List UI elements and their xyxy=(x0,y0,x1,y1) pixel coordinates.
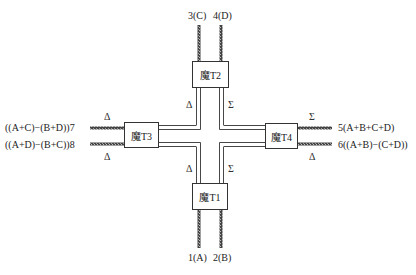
port-4-label: 4(D) xyxy=(213,10,232,21)
magic-t3-label: 魔T3 xyxy=(131,128,152,143)
magic-t2-box: 魔T2 xyxy=(192,61,229,88)
port-5-label: 5(A+B+C+D) xyxy=(338,122,394,133)
port-6-label: 6((A+B)−(C+D)) xyxy=(338,139,408,150)
port-3-line xyxy=(198,25,201,61)
port-1-line xyxy=(198,210,201,248)
port-7-label: ((A+C)−(B+D))7 xyxy=(5,122,75,133)
waveguide-lines xyxy=(0,0,416,275)
port-5-line xyxy=(298,127,332,130)
delta-symbol-t4-bottom: Δ xyxy=(309,151,315,162)
delta-symbol-t3-top: Δ xyxy=(104,111,110,122)
port-2-line xyxy=(220,210,223,248)
magic-t1-box: 魔T1 xyxy=(192,183,228,210)
port-4-line xyxy=(220,25,223,61)
port-3-label: 3(C) xyxy=(188,10,206,21)
delta-symbol-t2-left: Δ xyxy=(186,99,192,110)
port-1-label: 1(A) xyxy=(188,252,207,263)
magic-t4-box: 魔T4 xyxy=(265,123,298,149)
magic-t1-label: 魔T1 xyxy=(199,189,220,204)
magic-t3-box: 魔T3 xyxy=(124,122,159,148)
port-8-label: ((A+D)−(B+C))8 xyxy=(5,139,75,150)
port-2-label: 2(B) xyxy=(213,252,231,263)
port-8-line xyxy=(90,143,124,146)
double-line-waveguides xyxy=(159,88,265,183)
magic-t2-label: 魔T2 xyxy=(200,67,221,82)
magic-t4-label: 魔T4 xyxy=(271,129,292,144)
sigma-symbol-t4-top: Σ xyxy=(309,111,315,122)
port-7-line xyxy=(90,127,124,130)
delta-symbol-t3-bottom: Δ xyxy=(104,151,110,162)
port-6-line xyxy=(298,143,332,146)
delta-symbol-t1-left: Δ xyxy=(186,163,192,174)
sigma-symbol-t2-right: Σ xyxy=(228,99,234,110)
sigma-symbol-t1-right: Σ xyxy=(228,163,234,174)
